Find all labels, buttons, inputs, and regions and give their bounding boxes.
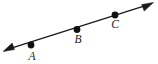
arrowhead-left-icon (3, 43, 15, 52)
point-marker-b (74, 26, 81, 33)
point-label-c: C (111, 19, 119, 31)
point-marker-a (28, 42, 35, 49)
point-label-a: A (28, 51, 35, 63)
geometry-figure: A B C (0, 0, 158, 64)
arrowhead-right-icon (142, 2, 154, 11)
point-label-b: B (74, 34, 81, 46)
geometry-canvas (0, 0, 158, 64)
